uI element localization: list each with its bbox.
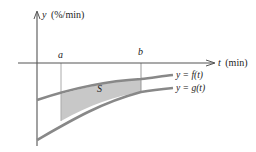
t-axis-label: t (min) [218,57,248,69]
curve-f-label: y = f(t) [175,70,203,81]
y-axis-label: y (%/min) [41,9,84,21]
b-label: b [138,46,143,57]
region-s-label: S [97,83,102,94]
a-label: a [58,49,63,60]
curve-g-label: y = g(t) [175,83,205,94]
area-between-curves-diagram: y (%/min) t (min) a b S y = f(t) y = g(t… [0,0,256,152]
